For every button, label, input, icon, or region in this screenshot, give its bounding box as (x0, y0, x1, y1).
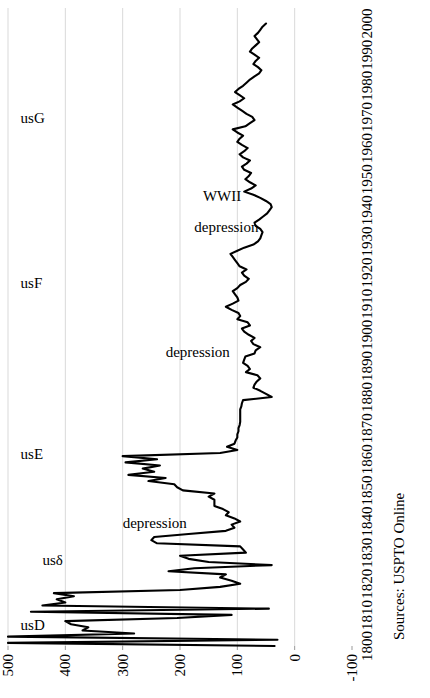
x-tick-label-1850: 1850 (359, 475, 375, 505)
y-tick-label-400: 400 (57, 654, 73, 677)
x-tick-label-1840: 1840 (359, 507, 375, 537)
region-label-usF: usF (21, 275, 43, 291)
chart-svg: -100010020030040050018001810182018301840… (0, 0, 430, 698)
y-tick-label-500: 500 (0, 654, 16, 677)
y-tick-label--100: -100 (344, 654, 360, 682)
x-tick-label-2000: 2000 (359, 9, 375, 39)
x-tick-label-1930: 1930 (359, 226, 375, 256)
x-tick-label-1830: 1830 (359, 538, 375, 568)
annotation-depression-2: depression (194, 219, 259, 235)
x-tick-label-1940: 1940 (359, 195, 375, 225)
annotation-wwii-3: WWII (203, 188, 241, 204)
y-tick-label-100: 100 (229, 654, 245, 677)
y-tick-label-200: 200 (172, 654, 188, 677)
x-tick-label-1970: 1970 (359, 102, 375, 132)
x-tick-label-1900: 1900 (359, 320, 375, 350)
rotated-chart-canvas: -100010020030040050018001810182018301840… (0, 0, 430, 698)
x-tick-label-1990: 1990 (359, 40, 375, 70)
plot-area: -100010020030040050018001810182018301840… (0, 0, 430, 698)
x-tick-label-1960: 1960 (359, 133, 375, 163)
x-tick-label-1800: 1800 (359, 631, 375, 661)
annotation-depression-1: depression (166, 344, 231, 360)
source-note: Sources: USPTO Online (391, 492, 407, 640)
region-label-usG: usG (21, 110, 45, 126)
region-label-usD: usD (21, 617, 45, 633)
x-tick-label-1860: 1860 (359, 444, 375, 474)
chart-figure: -100010020030040050018001810182018301840… (0, 0, 430, 698)
x-tick-label-1810: 1810 (359, 600, 375, 630)
region-label-usE: usE (21, 446, 43, 462)
y-tick-label-0: 0 (287, 654, 303, 662)
x-tick-label-1980: 1980 (359, 71, 375, 101)
x-tick-label-1820: 1820 (359, 569, 375, 599)
y-tick-label-300: 300 (115, 654, 131, 677)
x-tick-label-1910: 1910 (359, 289, 375, 319)
x-tick-label-1880: 1880 (359, 382, 375, 412)
region-label-usδ: usδ (42, 552, 62, 568)
annotation-depression-0: depression (123, 515, 188, 531)
x-tick-label-1920: 1920 (359, 258, 375, 288)
x-tick-label-1890: 1890 (359, 351, 375, 381)
x-tick-label-1950: 1950 (359, 164, 375, 194)
x-tick-label-1870: 1870 (359, 413, 375, 443)
